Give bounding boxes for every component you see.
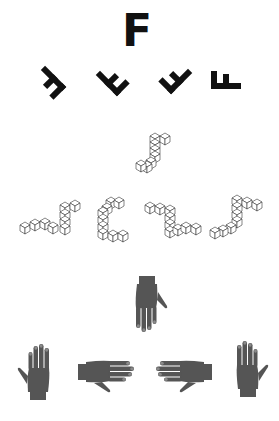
letter-option-2	[96, 62, 130, 96]
cube-figure-option-2	[98, 197, 128, 242]
hand-option-1	[18, 344, 50, 400]
hand-option-3	[156, 361, 212, 393]
hand-target	[136, 276, 168, 332]
cube-figure-target	[136, 133, 170, 173]
cube-figure-option-4	[210, 195, 262, 239]
stimuli-canvas	[0, 0, 279, 421]
letter-option-3	[158, 60, 192, 94]
hand-option-2	[78, 361, 134, 393]
letter-option-4	[211, 71, 241, 89]
cube-figure-option-3	[145, 202, 201, 238]
letter-option-1	[32, 66, 66, 100]
hand-option-4	[237, 341, 269, 397]
cube-figure-option-1	[20, 200, 80, 235]
